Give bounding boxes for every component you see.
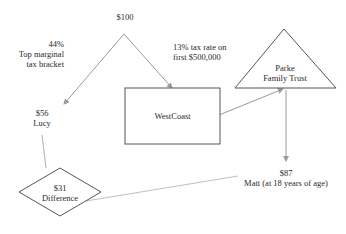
difference-label: Difference <box>30 193 90 203</box>
arrow-source-to-westcoast <box>124 34 172 88</box>
line-lucy-to-difference <box>42 135 46 168</box>
lucy-node: $56 Lucy <box>22 108 62 128</box>
arrow-westcoast-to-trust <box>219 89 283 115</box>
tax-desc-left-2: tax bracket <box>0 59 64 69</box>
lucy-amount: $56 <box>22 108 62 118</box>
source-amount: $100 <box>110 12 140 22</box>
arrow-source-to-lucy <box>64 34 124 104</box>
trust-label: Parke Family Trust <box>250 63 320 83</box>
matt-amount: $87 <box>226 168 346 178</box>
matt-name: Matt (at 18 years of age) <box>226 178 346 188</box>
line-difference-to-matt <box>86 176 238 201</box>
lucy-name: Lucy <box>22 118 62 128</box>
matt-node: $87 Matt (at 18 years of age) <box>226 168 346 188</box>
tax-desc-left-1: Top marginal <box>0 49 64 59</box>
tax-threshold-company: first $500,000 <box>173 52 227 62</box>
trust-label-line2: Family Trust <box>250 73 320 83</box>
difference-amount: $31 <box>30 183 90 193</box>
trust-label-line1: Parke <box>250 63 320 73</box>
tax-rate-left: 44% <box>0 39 64 49</box>
tax-note-company: 13% tax rate on first $500,000 <box>173 42 227 62</box>
westcoast-label: WestCoast <box>125 111 220 121</box>
tax-note-left: 44% Top marginal tax bracket <box>0 39 64 69</box>
difference-node: $31 Difference <box>30 183 90 203</box>
tax-rate-company: 13% tax rate on <box>173 42 227 52</box>
